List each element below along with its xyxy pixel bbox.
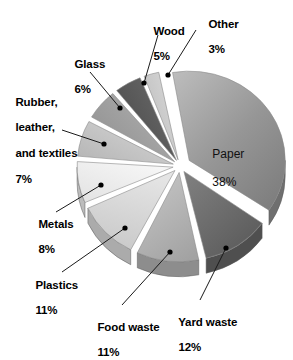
slice-label-metals-percent: 8% (38, 243, 54, 255)
slice-label-metals-name: Metals (38, 218, 73, 230)
slice-label-paper: Paper 38% (199, 133, 244, 203)
slice-label-paper-name: Paper (212, 147, 244, 161)
slice-label-yard-waste-name: Yard waste (178, 316, 237, 328)
slice-label-paper-percent: 38% (212, 175, 236, 189)
leader-dot (101, 141, 106, 146)
leader-dot (167, 249, 172, 254)
slice-label-wood: Wood 5% (141, 12, 185, 76)
slice-label-other-percent: 3% (208, 43, 224, 55)
slice-label-rubber-name-line2: leather, (15, 121, 54, 133)
slice-label-plastics-name: Plastics (35, 279, 78, 291)
slice-label-yard-waste-percent: 12% (178, 341, 201, 353)
slice-label-plastics-percent: 11% (35, 304, 57, 316)
slice-label-wood-name: Wood (153, 25, 184, 37)
leader-dot (141, 80, 146, 85)
slice-label-plastics: Plastics 11% (23, 266, 78, 330)
slice-label-rubber-percent: 7% (15, 173, 31, 185)
leader-dot (122, 225, 127, 230)
slice-label-yard-waste: Yard waste 12% (166, 303, 237, 360)
slice-label-other-name: Other (208, 18, 238, 30)
slice-label-food-waste-percent: 11% (97, 346, 119, 358)
slice-label-rubber-name-line1: Rubber, (15, 96, 57, 108)
slice-label-rubber-name-line3: and textiles (15, 147, 77, 159)
slice-label-rubber: Rubber, leather, and textiles 7% (3, 83, 77, 198)
slice-label-food-waste: Food waste 11% (85, 308, 160, 360)
leader-dot (98, 182, 103, 187)
slice-label-metals: Metals 8% (26, 205, 74, 269)
slice-label-wood-percent: 5% (153, 50, 169, 62)
slice-label-other: Other 3% (196, 5, 239, 69)
leader-dot (223, 245, 228, 250)
leader-dot (117, 105, 122, 110)
slice-label-food-waste-name: Food waste (97, 321, 159, 333)
slice-label-glass-name: Glass (74, 58, 105, 70)
